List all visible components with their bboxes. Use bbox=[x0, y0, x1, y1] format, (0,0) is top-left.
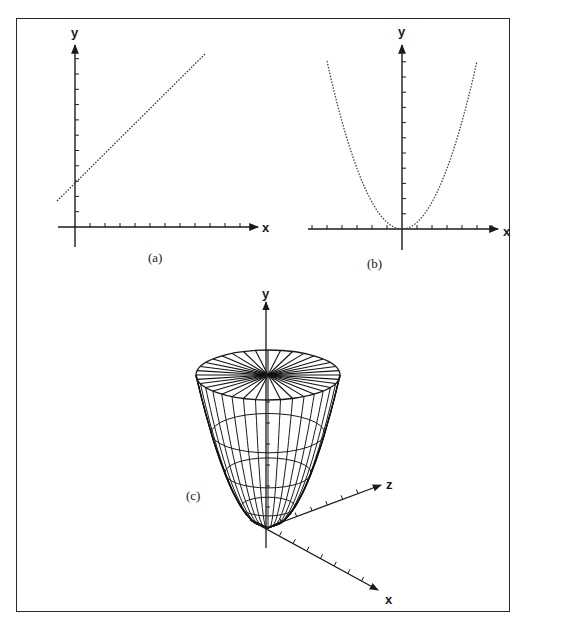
x-label-b: x bbox=[503, 224, 511, 239]
caption-c: (c) bbox=[186, 488, 200, 503]
y-label-a: y bbox=[71, 25, 79, 40]
paraboloid-wireframe bbox=[196, 350, 340, 528]
z-axis-c bbox=[266, 485, 381, 528]
x-label-c: x bbox=[385, 592, 393, 607]
figure-canvas: x y (a) x y (b) y x z (c) bbox=[0, 0, 564, 631]
y-label-c: y bbox=[262, 286, 270, 301]
panel-a: x y (a) bbox=[57, 25, 270, 265]
x-axis-c bbox=[250, 520, 378, 590]
caption-a: (a) bbox=[148, 250, 162, 265]
z-label-c: z bbox=[386, 477, 393, 492]
line-curve bbox=[57, 54, 205, 201]
panel-c: y x z (c) bbox=[186, 286, 393, 607]
caption-b: (b) bbox=[367, 256, 382, 271]
panel-b: x y (b) bbox=[308, 24, 511, 271]
y-label-b: y bbox=[398, 24, 406, 39]
x-label-a: x bbox=[262, 220, 270, 235]
